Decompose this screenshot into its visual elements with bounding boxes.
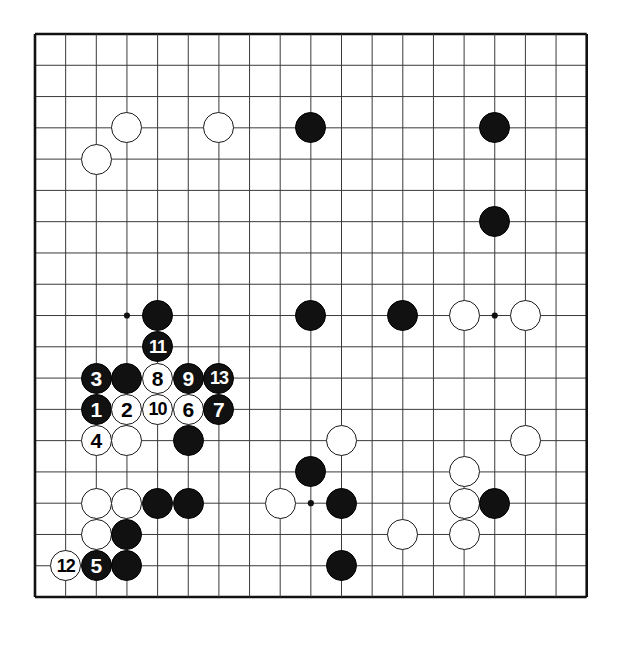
move-number-label: 13 xyxy=(210,369,228,387)
move-8-white[interactable]: 8 xyxy=(142,363,173,394)
white-stone-c16r13[interactable] xyxy=(510,425,541,456)
move-number-label: 11 xyxy=(149,337,166,355)
black-stone-c10r15[interactable] xyxy=(326,488,357,519)
star-point xyxy=(124,312,130,318)
move-10-white[interactable]: 10 xyxy=(142,394,173,425)
white-stone-c2r4[interactable] xyxy=(81,144,112,175)
black-stone-c5r15[interactable] xyxy=(173,488,204,519)
move-5-black[interactable]: 5 xyxy=(81,550,112,581)
black-stone-c4r15[interactable] xyxy=(142,488,173,519)
white-stone-c14r14[interactable] xyxy=(449,456,480,487)
move-number-label: 9 xyxy=(182,367,194,388)
move-number-label: 8 xyxy=(152,367,164,388)
white-stone-c8r15[interactable] xyxy=(265,488,296,519)
move-9-black[interactable]: 9 xyxy=(173,363,204,394)
black-stone-c4r9[interactable] xyxy=(142,300,173,331)
white-stone-c3r15[interactable] xyxy=(111,488,142,519)
white-stone-c14r15[interactable] xyxy=(449,488,480,519)
white-stone-c2r15[interactable] xyxy=(81,488,112,519)
white-stone-c14r9[interactable] xyxy=(449,300,480,331)
star-point xyxy=(308,500,314,506)
move-number-label: 5 xyxy=(90,555,102,576)
move-4-white[interactable]: 4 xyxy=(81,425,112,456)
move-1-black[interactable]: 1 xyxy=(81,394,112,425)
star-point xyxy=(492,312,498,318)
move-number-label: 1 xyxy=(90,398,102,419)
go-diagram-container: 11389131210674125 xyxy=(0,0,623,646)
move-number-label: 7 xyxy=(213,398,225,419)
move-13-black[interactable]: 13 xyxy=(203,363,234,394)
move-number-label: 4 xyxy=(90,430,102,451)
move-6-white[interactable]: 6 xyxy=(173,394,204,425)
move-number-label: 3 xyxy=(90,367,102,388)
move-number-label: 10 xyxy=(149,400,167,418)
move-number-label: 2 xyxy=(121,398,133,419)
white-stone-c16r9[interactable] xyxy=(510,300,541,331)
white-stone-c2r16[interactable] xyxy=(81,519,112,550)
black-stone-c5r13[interactable] xyxy=(173,425,204,456)
black-stone-c15r15[interactable] xyxy=(479,488,510,519)
black-stone-c3r11[interactable] xyxy=(111,363,142,394)
move-number-label: 12 xyxy=(57,556,75,574)
white-stone-c10r13[interactable] xyxy=(326,425,357,456)
white-stone-c14r16[interactable] xyxy=(449,519,480,550)
move-3-black[interactable]: 3 xyxy=(81,363,112,394)
move-number-label: 6 xyxy=(182,398,194,419)
